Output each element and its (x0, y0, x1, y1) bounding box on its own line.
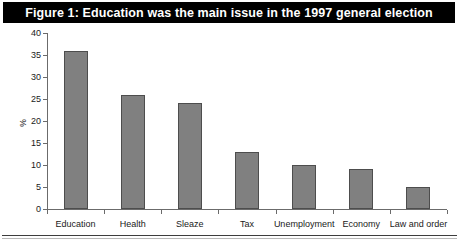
y-tick-label: 30 (31, 72, 41, 82)
bar (121, 95, 145, 209)
y-tick-label: 15 (31, 138, 41, 148)
y-tick-label: 5 (36, 182, 41, 192)
x-tick-label: Economy (343, 219, 381, 229)
x-tick-label: Education (56, 219, 96, 229)
x-tick-mark (218, 210, 219, 214)
y-tick-mark (43, 99, 47, 100)
figure-title-bar: Figure 1: Education was the main issue i… (3, 2, 455, 23)
x-tick-label: Unemployment (274, 219, 335, 229)
y-axis-title: % (18, 119, 28, 127)
y-tick-label: 35 (31, 50, 41, 60)
x-tick-label: Law and order (390, 219, 448, 229)
page-title: Figure 1: Education was the main issue i… (3, 6, 455, 19)
x-tick-mark (104, 210, 105, 214)
y-tick-mark (43, 187, 47, 188)
bar (64, 51, 88, 209)
x-tick-label: Health (120, 219, 146, 229)
y-tick-label: 10 (31, 160, 41, 170)
y-axis-line (47, 33, 48, 210)
y-tick-mark (43, 121, 47, 122)
bottom-divider-secondary (2, 238, 457, 239)
x-tick-mark (161, 210, 162, 214)
x-tick-mark (333, 210, 334, 214)
x-tick-label: Sleaze (176, 219, 204, 229)
y-tick-mark (43, 33, 47, 34)
y-tick-label: 40 (31, 28, 41, 38)
x-tick-mark (447, 210, 448, 214)
y-tick-mark (43, 165, 47, 166)
x-tick-mark (390, 210, 391, 214)
bar (235, 152, 259, 209)
y-tick-label: 0 (36, 204, 41, 214)
y-tick-mark (43, 77, 47, 78)
figure-container: Figure 1: Education was the main issue i… (0, 0, 459, 241)
bar (349, 169, 373, 209)
bar (178, 103, 202, 209)
y-tick-mark (43, 55, 47, 56)
y-tick-label: 20 (31, 116, 41, 126)
y-tick-label: 25 (31, 94, 41, 104)
bar (406, 187, 430, 209)
x-tick-mark (47, 210, 48, 214)
x-tick-mark (276, 210, 277, 214)
x-axis-line (47, 209, 447, 210)
y-tick-mark (43, 143, 47, 144)
plot-area: 0510152025303540 EducationHealthSleazeTa… (47, 33, 447, 210)
bar (292, 165, 316, 209)
bottom-divider (2, 235, 457, 236)
x-tick-label: Tax (240, 219, 254, 229)
